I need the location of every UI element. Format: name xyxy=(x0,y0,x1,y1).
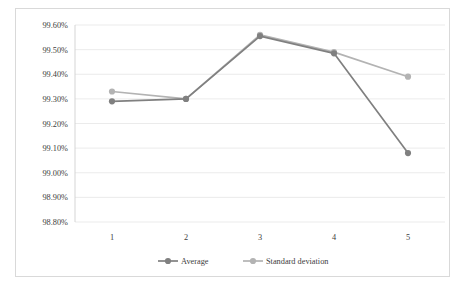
gridlines xyxy=(75,25,445,222)
y-axis-tick-labels: 99.60%99.50%99.40%99.30%99.20%99.10%99.0… xyxy=(42,21,68,227)
data-point-marker xyxy=(257,33,263,39)
series-line-standard-deviation xyxy=(112,35,408,99)
line-chart: 99.60%99.50%99.40%99.30%99.20%99.10%99.0… xyxy=(0,0,465,293)
data-point-marker xyxy=(331,50,337,56)
x-axis-tick-labels: 12345 xyxy=(110,233,410,242)
x-axis-tick-label: 1 xyxy=(110,233,114,242)
chart-legend: AverageStandard deviation xyxy=(158,257,329,266)
data-point-marker xyxy=(109,98,115,104)
x-axis-tick-label: 2 xyxy=(184,233,188,242)
x-axis-tick-label: 4 xyxy=(332,233,337,242)
legend-swatch-marker xyxy=(165,258,171,264)
y-axis-tick-label: 98.80% xyxy=(42,218,68,227)
legend-label: Average xyxy=(181,257,209,266)
data-point-marker xyxy=(405,74,411,80)
legend-swatch-marker xyxy=(250,258,256,264)
data-point-marker xyxy=(405,150,411,156)
data-point-marker xyxy=(109,88,115,94)
y-axis-tick-label: 98.90% xyxy=(42,193,68,202)
y-axis-tick-label: 99.30% xyxy=(42,95,68,104)
y-axis-tick-label: 99.50% xyxy=(42,46,68,55)
y-axis-tick-label: 99.10% xyxy=(42,144,68,153)
x-axis-tick-label: 3 xyxy=(258,233,262,242)
legend-label: Standard deviation xyxy=(266,257,329,266)
series-line-average xyxy=(112,36,408,153)
y-axis-tick-label: 99.00% xyxy=(42,169,68,178)
y-axis-tick-label: 99.20% xyxy=(42,120,68,129)
y-axis-tick-label: 99.40% xyxy=(42,70,68,79)
data-point-marker xyxy=(183,96,189,102)
data-series xyxy=(109,32,411,156)
y-axis-tick-label: 99.60% xyxy=(42,21,68,30)
x-axis-tick-label: 5 xyxy=(406,233,410,242)
